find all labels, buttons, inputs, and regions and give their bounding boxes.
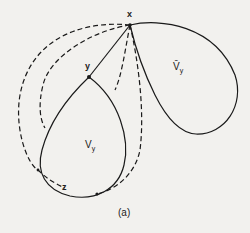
dashed-second [40, 25, 130, 128]
label-v-y-main: V [85, 139, 92, 150]
diagram-figure [0, 0, 250, 233]
label-x: x [127, 10, 132, 19]
loop-v-y-bar [130, 23, 238, 134]
dashed-right [97, 25, 142, 194]
loop-v-y [40, 77, 125, 197]
point-z-junction [37, 169, 40, 172]
edge-x-y [89, 25, 130, 77]
label-v-y-sub: y [92, 145, 96, 152]
dashed-outer [19, 24, 130, 188]
label-v-y-bar-main: V̄ [173, 61, 180, 72]
label-v-y: Vy [85, 140, 95, 152]
label-v-y-bar-sub: y [180, 67, 184, 74]
point-bottom [95, 192, 98, 195]
point-y [87, 75, 91, 79]
label-y: y [85, 62, 90, 71]
label-v-y-bar: V̄y [173, 62, 183, 74]
panel-label: (a) [118, 208, 130, 218]
point-x [128, 23, 132, 27]
label-z: z [62, 183, 67, 192]
